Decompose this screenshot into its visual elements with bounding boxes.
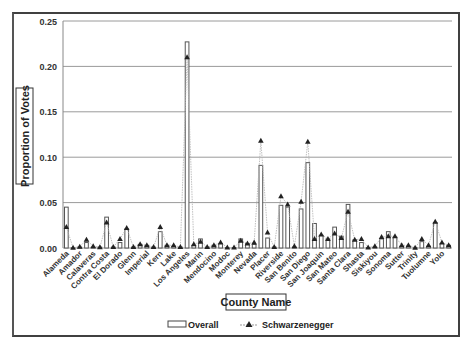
bar-san-joaquin [319,235,323,248]
y-tick-label: 0.00 [39,244,57,254]
triangle-marker-icon [298,199,304,204]
triangle-marker-icon [432,219,438,224]
bar-nevada [252,244,256,248]
legend-label-schwarzenegger: Schwarzenegger [262,320,334,330]
y-tick-label: 0.20 [39,62,57,72]
triangle-marker-icon [90,243,96,248]
triangle-marker-icon [318,231,324,236]
y-axis-label: Proportion of Votes [19,85,31,187]
y-tick-label: 0.15 [39,107,57,117]
bar-solano [380,239,384,248]
schwarzenegger-series [64,54,452,249]
chart: 0.000.050.100.150.200.25 AlamedaAmadorCa… [0,0,469,348]
bar-riverside [279,205,283,248]
triangle-marker-icon [439,240,445,245]
y-tick-label: 0.05 [39,198,57,208]
x-axis-label: County Name [221,296,292,308]
triangle-marker-icon [419,236,425,241]
y-tick-label: 0.10 [39,153,57,163]
triangle-marker-icon [225,244,231,249]
triangle-marker-icon [84,237,90,242]
triangle-marker-icon [426,242,432,247]
triangle-marker-icon [251,240,257,245]
bar-san-diego [306,163,310,248]
legend-item-overall: Overall [168,320,219,330]
bar-butte [85,243,89,248]
bar-stanislaus [393,237,397,248]
triangle-marker-icon [117,236,123,241]
triangle-marker-icon [258,138,264,143]
triangle-marker-icon [157,224,163,229]
bar-fresno [125,229,129,248]
bar-kern [158,232,162,248]
triangle-marker-icon [278,193,284,198]
legend-label-overall: Overall [188,320,219,330]
triangle-marker-icon [292,243,298,248]
triangle-marker-icon [365,244,371,249]
y-tick-label: 0.25 [39,17,57,27]
triangle-marker-icon [218,240,224,245]
x-axis-title: County Name [221,294,292,310]
overall-bars [65,42,451,248]
triangle-marker-icon [171,242,177,247]
y-axis-ticks: 0.000.050.100.150.200.25 [39,17,57,254]
x-tick-label: Yolo [428,249,446,267]
bar-placer [266,238,270,248]
triangle-marker-icon [359,236,365,241]
triangle-marker-icon [265,230,271,235]
bar-ventura [433,223,437,248]
triangle-marker-icon [406,242,412,247]
bar-orange [259,165,263,248]
triangle-marker-icon [305,139,311,144]
gridlines [63,21,452,248]
bar-san-mateo [333,227,337,248]
triangle-marker-icon [124,225,130,230]
bar-shasta [360,243,364,248]
x-axis-tick-labels: AlamedaAmadorCalaverasContra CostaEl Dor… [41,249,447,291]
bar-san-bernardino [299,209,303,248]
legend-item-schwarzenegger: Schwarzenegger [240,320,334,330]
triangle-marker-icon [412,245,418,250]
bar-tulare [420,242,424,248]
bar-swatch-icon [168,321,186,327]
legend: Overall Schwarzenegger [168,320,334,330]
bar-el-dorado [118,243,122,248]
bar-los-angeles [185,42,189,248]
y-axis-title: Proportion of Votes [16,85,33,187]
triangle-marker-icon [246,321,253,327]
triangle-marker-icon [392,233,398,238]
